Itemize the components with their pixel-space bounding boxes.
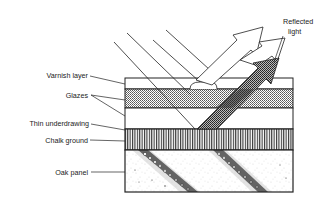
- chalk-ground-layer: [125, 129, 293, 150]
- oak-panel-layer: [125, 150, 293, 192]
- label-reflected-light-2: light: [288, 27, 301, 36]
- label-glazes: Glazes: [66, 91, 89, 100]
- painting-layers-diagram: Reflected light Varnish layer Glazes Thi…: [0, 0, 333, 203]
- label-reflected-light-1: Reflected: [283, 17, 313, 26]
- label-oak-panel: Oak panel: [55, 168, 88, 177]
- label-chalk-ground: Chalk ground: [45, 136, 88, 145]
- label-varnish-layer: Varnish layer: [47, 71, 89, 80]
- label-thin-underdrawing: Thin underdrawing: [29, 119, 89, 128]
- layer-stack: [125, 78, 293, 192]
- glazes-layer: [125, 89, 293, 108]
